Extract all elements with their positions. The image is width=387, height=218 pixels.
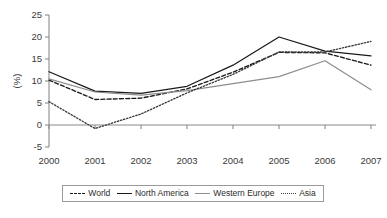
legend-item-western-europe[interactable]: Western Europe — [195, 189, 274, 198]
x-axis-tick-label: 2002 — [130, 155, 151, 166]
legend-line-swatch-asia — [281, 193, 296, 194]
chart-container: -505101520252000200120022003200420052006… — [0, 0, 387, 218]
legend-label-asia: Asia — [299, 189, 316, 198]
x-axis-tick-label: 2001 — [84, 155, 105, 166]
y-axis-tick-label: 10 — [31, 75, 42, 86]
legend-line-swatch-western-europe — [195, 193, 210, 194]
legend-label-western-europe: Western Europe — [213, 189, 274, 198]
series-line-asia[interactable] — [49, 41, 371, 128]
x-axis-tick-label: 2007 — [360, 155, 381, 166]
series-line-north-america[interactable] — [49, 37, 371, 93]
y-axis-tick-label: -5 — [34, 141, 42, 152]
y-axis-tick-label: 0 — [37, 119, 42, 130]
chart-legend: World North America Western Europe Asia — [62, 185, 324, 202]
x-axis-tick-label: 2004 — [222, 155, 243, 166]
y-axis-tick-label: 15 — [31, 53, 42, 64]
legend-item-asia[interactable]: Asia — [281, 189, 316, 198]
y-axis-tick-label: 5 — [37, 97, 42, 108]
x-axis-tick-label: 2005 — [268, 155, 289, 166]
legend-item-world[interactable]: World — [70, 189, 110, 198]
legend-item-north-america[interactable]: North America — [117, 189, 189, 198]
y-axis-tick-label: 20 — [31, 31, 42, 42]
x-axis-tick-label: 2003 — [176, 155, 197, 166]
series-line-western-europe[interactable] — [49, 61, 371, 95]
x-axis-tick-label: 2006 — [314, 155, 335, 166]
y-axis-tick-label: 25 — [31, 9, 42, 20]
legend-label-world: World — [88, 189, 110, 198]
x-axis-tick-label: 2000 — [38, 155, 59, 166]
legend-label-north-america: North America — [135, 189, 189, 198]
legend-line-swatch-world — [70, 193, 85, 194]
y-axis-title: (%) — [11, 74, 22, 89]
legend-line-swatch-north-america — [117, 193, 132, 194]
